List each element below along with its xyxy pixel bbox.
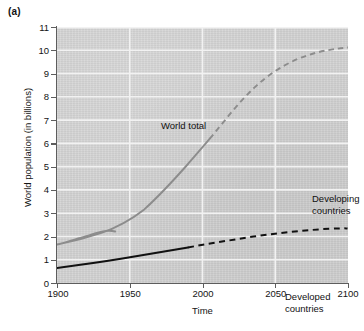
- y-tick-mark-10: [51, 50, 57, 51]
- y-tick-label-1: 1: [9, 255, 49, 265]
- y-tick-mark-5: [51, 167, 57, 168]
- y-axis-line: [56, 26, 57, 284]
- y-axis-title: World population (in billions): [22, 63, 33, 233]
- y-tick-mark-8: [51, 97, 57, 98]
- data-series: [57, 27, 348, 283]
- x-tick-label-2050: 2050: [246, 289, 306, 299]
- y-tick-label-10: 10: [9, 46, 49, 56]
- y-tick-label-11: 11: [9, 23, 49, 33]
- x-tick-label-2000: 2000: [173, 289, 233, 299]
- x-axis-title: Time: [57, 305, 348, 316]
- developed-solid: [57, 247, 188, 268]
- world-total-solid: [57, 139, 210, 245]
- plot-area: World total Developing countries Develop…: [57, 27, 348, 283]
- y-tick-label-0: 0: [9, 279, 49, 289]
- annotation-world-total: World total: [161, 120, 206, 132]
- y-tick-mark-1: [51, 260, 57, 261]
- annotation-developing-countries: Developing countries: [312, 193, 360, 216]
- y-tick-mark-11: [51, 27, 57, 28]
- y-tick-mark-2: [51, 237, 57, 238]
- y-tick-mark-7: [51, 120, 57, 121]
- world-total-dashed: [210, 48, 348, 139]
- y-tick-mark-6: [51, 143, 57, 144]
- x-tick-label-1900: 1900: [28, 289, 88, 299]
- developed-dashed: [188, 228, 348, 247]
- y-tick-label-2: 2: [9, 232, 49, 242]
- population-projection-figure: (a): [0, 0, 364, 331]
- y-tick-mark-3: [51, 213, 57, 214]
- panel-label: (a): [8, 6, 21, 17]
- x-tick-label-1950: 1950: [100, 289, 160, 299]
- y-tick-mark-9: [51, 74, 57, 75]
- x-tick-label-2100: 2100: [318, 289, 364, 299]
- y-tick-mark-4: [51, 190, 57, 191]
